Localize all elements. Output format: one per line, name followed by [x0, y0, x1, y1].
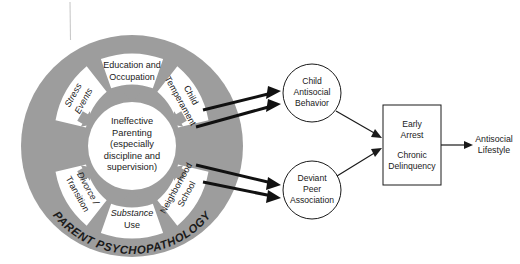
outcome-box-line-3: Delinquency [388, 161, 436, 171]
education-occupation-line-1: Occupation [109, 72, 155, 82]
node-antisocial-lifestyle[interactable]: Antisocial Lifestyle [475, 134, 513, 155]
outcome-box-line-2: Chronic [397, 150, 427, 160]
hub-line-1: Parenting [112, 128, 152, 138]
education-occupation-line-0: Education and [103, 60, 161, 70]
wheel-hub-label: Ineffective Parenting (especially discip… [104, 116, 160, 172]
antisocial-pathway-diagram: Ineffective Parenting (especially discip… [0, 0, 520, 264]
child-antisocial-line-1: Antisocial [294, 87, 331, 97]
sector-education-occupation [101, 54, 163, 89]
outcome-box-line-1: Arrest [401, 130, 425, 140]
deviant-peer-line-2: Association [290, 195, 334, 205]
child-antisocial-line-0: Child [302, 76, 322, 86]
diagram-canvas: Ineffective Parenting (especially discip… [0, 0, 520, 264]
substance-use-line-1: Use [124, 220, 140, 230]
scan-artifact-line [70, 2, 71, 40]
node-to-box-arrows [336, 111, 382, 176]
deviant-peer-line-1: Peer [303, 184, 321, 194]
substance-use-line-0: Substance [111, 208, 154, 218]
node-deviant-peer-association[interactable]: Deviant Peer Association [283, 161, 341, 219]
parent-psychopathology-wheel: Ineffective Parenting (especially discip… [21, 35, 243, 257]
node-child-antisocial-behavior[interactable]: Child Antisocial Behavior [283, 64, 341, 122]
arrow-box-to-antisocial-lifestyle [441, 141, 473, 149]
deviant-peer-line-0: Deviant [297, 173, 327, 183]
outcome-box-line-0: Early [402, 119, 422, 129]
node-early-arrest-chronic-delinquency[interactable]: Early Arrest Chronic Delinquency [383, 105, 441, 185]
hub-line-4: supervision) [107, 162, 157, 172]
arrow-deviant-peer-to-box [337, 148, 382, 176]
arrow-child-antisocial-to-box [336, 111, 382, 138]
outcome-box [383, 105, 441, 185]
child-antisocial-line-2: Behavior [295, 98, 329, 108]
hub-line-2: (especially [110, 139, 154, 149]
hub-line-3: discipline and [104, 151, 160, 161]
antisocial-lifestyle-line-0: Antisocial [475, 134, 513, 144]
antisocial-lifestyle-line-1: Lifestyle [478, 145, 510, 155]
hub-line-0: Ineffective [111, 116, 153, 126]
